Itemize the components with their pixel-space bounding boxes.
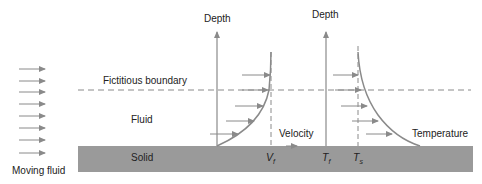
temperature-label: Temperature — [412, 129, 468, 139]
temperature-profile-curve — [358, 52, 420, 146]
ts-subscript: s — [359, 158, 363, 165]
ts-label: Ts — [353, 152, 363, 165]
fluid-label: Fluid — [131, 115, 153, 125]
vf-symbol: V — [266, 151, 273, 163]
depth-label-temperature: Depth — [312, 10, 339, 20]
moving-fluid-arrows — [19, 69, 45, 153]
tf-subscript: f — [328, 158, 330, 165]
velocity-profile-arrows — [210, 75, 270, 134]
velocity-profile-curve — [217, 52, 271, 146]
fictitious-boundary-label: Fictitious boundary — [103, 76, 187, 86]
vf-subscript: f — [273, 158, 275, 165]
boundary-layer-diagram — [0, 0, 482, 184]
depth-label-velocity: Depth — [204, 14, 231, 24]
moving-fluid-label: Moving fluid — [12, 166, 65, 176]
tf-label: Tf — [322, 152, 330, 165]
velocity-label: Velocity — [279, 129, 313, 139]
vf-label: Vf — [266, 152, 275, 165]
solid-label: Solid — [131, 153, 153, 163]
